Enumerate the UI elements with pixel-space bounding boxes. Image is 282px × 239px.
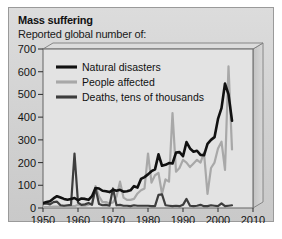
y-tick-label: 400 bbox=[18, 111, 36, 123]
x-tick-label: 2000 bbox=[206, 214, 230, 223]
chart-title: Mass suffering bbox=[18, 14, 93, 26]
legend-label-0: Natural disasters bbox=[82, 61, 161, 73]
x-tick-label: 2010 bbox=[241, 214, 265, 223]
y-tick-label: 0 bbox=[30, 202, 36, 214]
x-axis-ticks: 1950196019701980199020002010 bbox=[31, 208, 265, 223]
x-tick-label: 1960 bbox=[66, 214, 90, 223]
x-tick-label: 1980 bbox=[136, 214, 160, 223]
plot-area-wrapper: 0100200300400500600700 19501960197019801… bbox=[9, 41, 275, 223]
x-tick-label: 1950 bbox=[31, 214, 55, 223]
legend-label-2: Deaths, tens of thousands bbox=[82, 91, 204, 103]
line-chart-svg: 0100200300400500600700 19501960197019801… bbox=[9, 41, 275, 223]
y-tick-label: 500 bbox=[18, 88, 36, 100]
x-tick-label: 1970 bbox=[101, 214, 125, 223]
y-tick-label: 200 bbox=[18, 157, 36, 169]
y-tick-label: 300 bbox=[18, 134, 36, 146]
legend-label-1: People affected bbox=[82, 76, 155, 88]
box-side-face bbox=[253, 43, 263, 208]
chart-panel: Mass suffering Reported global number of… bbox=[8, 7, 274, 222]
y-axis-ticks: 0100200300400500600700 bbox=[18, 43, 43, 214]
figure-container: Mass suffering Reported global number of… bbox=[0, 0, 282, 239]
box-top-face bbox=[43, 43, 263, 49]
y-tick-label: 100 bbox=[18, 179, 36, 191]
chart-subtitle: Reported global number of: bbox=[18, 28, 146, 40]
x-tick-label: 1990 bbox=[171, 214, 195, 223]
y-tick-label: 600 bbox=[18, 66, 36, 78]
y-tick-label: 700 bbox=[18, 43, 36, 55]
